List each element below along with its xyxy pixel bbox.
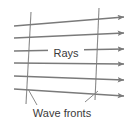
wave-fronts-label: Wave fronts bbox=[33, 107, 92, 119]
wave-fronts-diagram: Rays Wave fronts bbox=[0, 0, 136, 122]
diagram-canvas: Rays Wave fronts bbox=[0, 0, 136, 122]
rays-label: Rays bbox=[53, 47, 79, 59]
leader-line-right bbox=[85, 91, 98, 102]
ray-line-5 bbox=[14, 76, 124, 80]
wave-front-leader-lines bbox=[28, 89, 98, 105]
ray-line-4 bbox=[14, 63, 124, 64]
ray-line-2 bbox=[14, 33, 124, 38]
wave-front-line-right bbox=[95, 8, 99, 100]
leader-line-left bbox=[28, 89, 37, 105]
rays-label-group: Rays bbox=[48, 47, 84, 60]
